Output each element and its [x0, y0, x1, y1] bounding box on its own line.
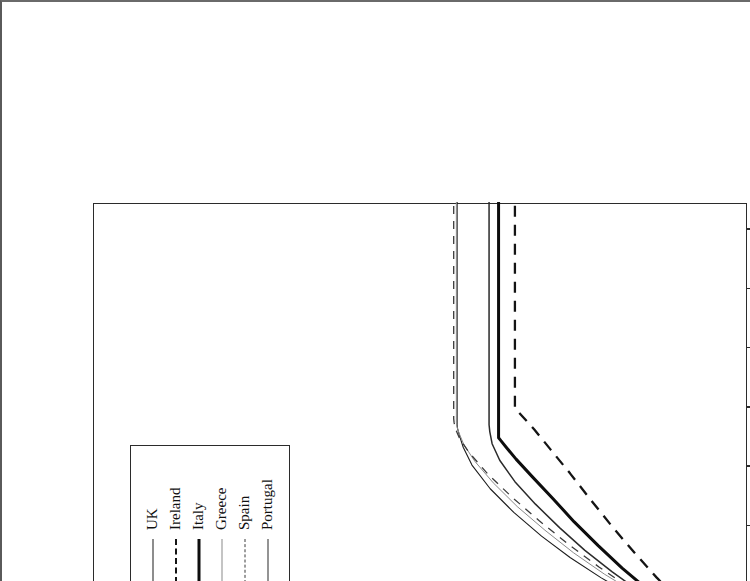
legend-label: Portugal	[259, 479, 276, 530]
legend-line-sample-icon	[146, 539, 160, 581]
legend-item-spain: Spain	[236, 496, 253, 581]
rotated-figure-container: 0.000.050.100.150.200.250.300.35 0.000.0…	[0, 169, 750, 581]
series-line-ireland	[515, 202, 733, 581]
series-line-italy	[499, 202, 733, 581]
series-line-spain	[454, 202, 733, 581]
legend-item-ireland: Ireland	[167, 488, 184, 581]
legend-label: Italy	[190, 503, 207, 531]
legend-line-sample-icon	[238, 539, 252, 581]
curve-group	[454, 202, 733, 581]
legend: UKIrelandItalyGreeceSpainPortugal	[130, 445, 290, 581]
legend-label: Spain	[236, 496, 253, 530]
scanned-figure-page: 0.000.050.100.150.200.250.300.35 0.000.0…	[0, 0, 750, 581]
series-line-portugal	[489, 202, 733, 581]
legend-item-uk: UK	[144, 508, 161, 581]
legend-item-italy: Italy	[190, 503, 207, 581]
legend-line-sample-icon	[192, 539, 206, 581]
legend-line-sample-icon	[261, 539, 275, 581]
legend-line-sample-icon	[169, 539, 183, 581]
legend-item-greece: Greece	[213, 488, 230, 581]
legend-label: Greece	[213, 488, 230, 530]
legend-line-sample-icon	[215, 539, 229, 581]
figure: 0.000.050.100.150.200.250.300.35 0.000.0…	[0, 169, 750, 581]
legend-label: UK	[144, 508, 161, 530]
legend-item-portugal: Portugal	[259, 479, 276, 581]
legend-label: Ireland	[167, 488, 184, 530]
